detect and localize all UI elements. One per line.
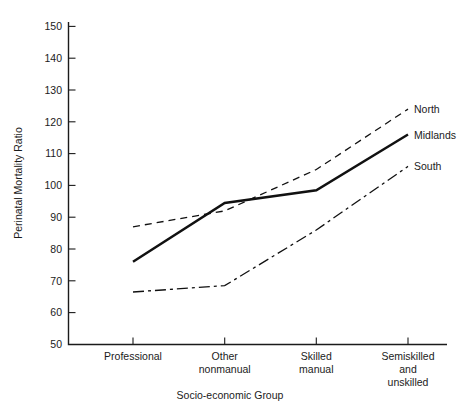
y-tick-label-80: 80 (50, 243, 62, 255)
series-label-south: South (414, 160, 442, 172)
perinatal-mortality-line-chart: 150 140 130 120 110 100 90 80 70 60 50 P… (0, 0, 461, 407)
x-tick-label-skilled-line2: manual (299, 363, 333, 375)
y-tick-label-70: 70 (50, 275, 62, 287)
series-lines (133, 109, 408, 292)
y-tick-labels: 150 140 130 120 110 100 90 80 70 60 50 (44, 20, 62, 350)
y-tick-marks (69, 26, 76, 312)
x-tick-label-semiskilled-line1: Semiskilled (381, 350, 434, 362)
axis-frame (69, 22, 448, 345)
y-tick-label-100: 100 (44, 179, 62, 191)
x-tick-label-semiskilled-line3: unskilled (388, 376, 429, 388)
series-label-midlands: Midlands (414, 129, 456, 141)
x-tick-label-professional: Professional (104, 350, 162, 362)
x-tick-marks (133, 338, 408, 345)
series-label-north: North (414, 103, 440, 115)
chart-page: 150 140 130 120 110 100 90 80 70 60 50 P… (0, 0, 461, 407)
x-tick-label-other-line1: Other (212, 350, 239, 362)
y-tick-label-140: 140 (44, 52, 62, 64)
x-tick-label-other-line2: nonmanual (199, 363, 251, 375)
y-tick-label-50: 50 (50, 338, 62, 350)
x-axis-title: Socio-economic Group (177, 389, 284, 401)
x-tick-label-skilled-line1: Skilled (301, 350, 332, 362)
y-tick-label-130: 130 (44, 84, 62, 96)
y-tick-label-90: 90 (50, 211, 62, 223)
y-tick-label-120: 120 (44, 116, 62, 128)
series-labels: North Midlands South (414, 103, 456, 172)
series-line-midlands (133, 135, 408, 262)
series-line-north (133, 109, 408, 227)
y-tick-label-150: 150 (44, 20, 62, 32)
y-tick-label-110: 110 (45, 147, 62, 159)
series-line-south (133, 166, 408, 292)
x-tick-label-semiskilled-line2: and (399, 363, 417, 375)
y-axis-title: Perinatal Mortality Ratio (12, 127, 24, 239)
y-tick-label-60: 60 (50, 306, 62, 318)
x-tick-labels: Professional Other nonmanual Skilled man… (104, 350, 435, 388)
